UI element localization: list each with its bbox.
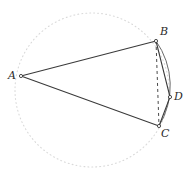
segment-AC — [21, 76, 159, 126]
dotted-circle — [15, 13, 169, 167]
vertex-marker-A — [19, 74, 22, 77]
vertex-marker-B — [154, 39, 157, 42]
geometry-figure: A B C D — [0, 0, 191, 175]
segment-AB — [21, 41, 156, 76]
vertex-label-C: C — [161, 128, 169, 139]
segment-DC — [159, 97, 170, 126]
vertex-label-D: D — [174, 91, 183, 102]
vertex-label-A: A — [8, 70, 16, 81]
vertex-label-B: B — [160, 26, 168, 37]
vertex-marker-D — [168, 95, 171, 98]
chord-BC — [156, 41, 159, 126]
segment-BD — [156, 41, 170, 97]
